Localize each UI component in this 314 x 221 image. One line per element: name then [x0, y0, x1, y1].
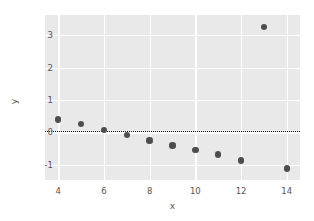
data-point [101, 127, 107, 133]
gridline-horizontal [45, 35, 300, 36]
gridline-vertical [150, 15, 151, 180]
x-tick-label: 8 [147, 187, 152, 196]
data-point [238, 157, 244, 163]
gridline-vertical [287, 15, 288, 180]
zero-reference-line [45, 131, 300, 132]
data-point [146, 137, 152, 143]
gridline-horizontal [45, 100, 300, 101]
data-point [169, 142, 175, 148]
plot-area [45, 15, 300, 180]
y-tick-label: 3 [48, 31, 53, 40]
gridline-horizontal [45, 132, 300, 133]
y-tick-label: 1 [48, 96, 53, 105]
gridline-vertical [241, 15, 242, 180]
scatter-plot-figure: 468101214 -10123 x y [0, 0, 314, 221]
x-tick-label: 12 [236, 187, 247, 196]
x-tick-label: 6 [101, 187, 106, 196]
y-tick-label: -1 [45, 161, 53, 170]
data-point [124, 132, 130, 138]
gridline-horizontal [45, 68, 300, 69]
y-axis-label: y [10, 96, 19, 108]
x-tick-label: 14 [281, 187, 292, 196]
gridline-vertical [104, 15, 105, 180]
data-point [261, 24, 267, 30]
data-point [55, 116, 61, 122]
gridline-horizontal [45, 165, 300, 166]
data-point [215, 151, 221, 157]
data-point [192, 147, 198, 153]
gridline-vertical [195, 15, 196, 180]
x-tick-label: 4 [56, 187, 61, 196]
data-point [78, 121, 84, 127]
gridline-vertical [58, 15, 59, 180]
x-axis-label: x [45, 202, 300, 211]
data-point [284, 165, 290, 171]
y-tick-label: 0 [48, 128, 53, 137]
x-tick-label: 10 [190, 187, 201, 196]
y-tick-label: 2 [48, 63, 53, 72]
